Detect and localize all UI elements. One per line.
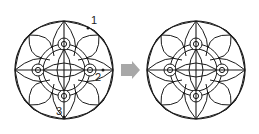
left-rosette-pattern <box>15 21 113 119</box>
point-1-marker <box>87 27 90 30</box>
label-3: 3 <box>56 105 62 117</box>
label-2: 2 <box>95 71 101 83</box>
point-3-marker <box>63 116 66 119</box>
right-rosette-pattern <box>147 21 245 119</box>
left-pattern-labels: 1 2 3 <box>56 14 105 119</box>
rosette-diagram: 1 2 3 <box>0 0 259 134</box>
label-1: 1 <box>91 14 97 26</box>
point-2-marker <box>102 69 105 72</box>
right-arrow-icon <box>121 61 140 79</box>
